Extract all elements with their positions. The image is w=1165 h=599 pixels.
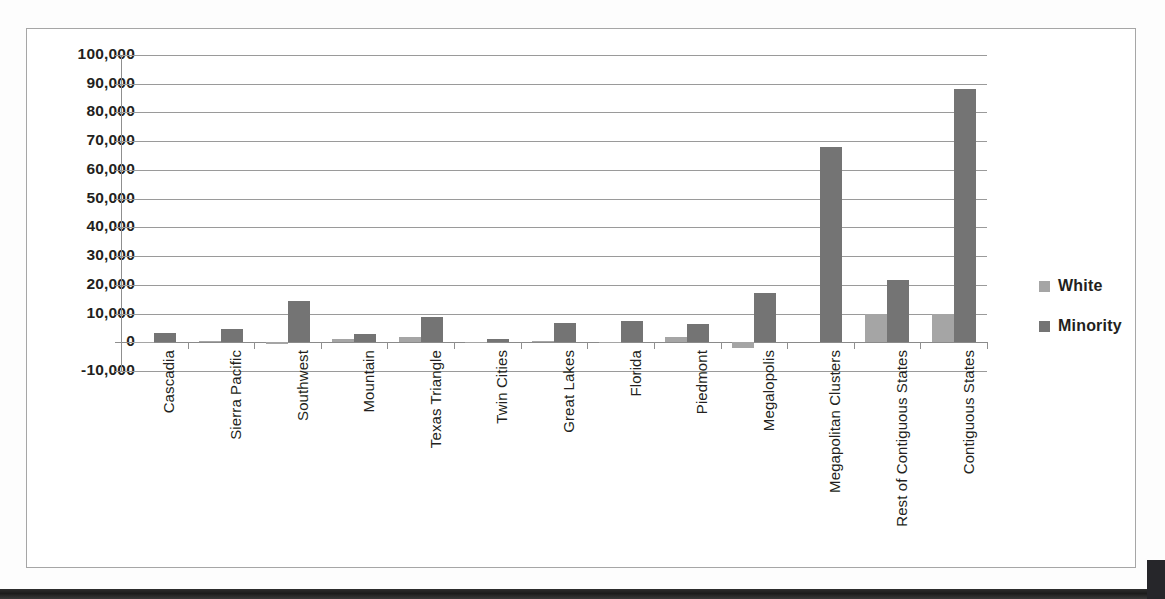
x-axis-tick-label: Megalopolis bbox=[760, 350, 777, 431]
bar-minority bbox=[154, 333, 176, 342]
y-axis-tick-label: 50,000 bbox=[27, 189, 135, 207]
chart-frame: 100,00090,00080,00070,00060,00050,00040,… bbox=[26, 28, 1136, 568]
bar-white bbox=[199, 341, 221, 343]
bar-white bbox=[732, 342, 754, 348]
bar-minority bbox=[754, 293, 776, 342]
y-axis-tick-label: 20,000 bbox=[27, 275, 135, 293]
bar-minority bbox=[221, 329, 243, 343]
x-axis-tick-label: Piedmont bbox=[693, 350, 710, 414]
y-axis-tick-label: -10,000 bbox=[27, 361, 135, 379]
chart-legend: WhiteMinority bbox=[1039, 277, 1122, 357]
legend-swatch-icon bbox=[1039, 281, 1050, 292]
x-axis-tick-label: Florida bbox=[627, 350, 644, 397]
bar-minority bbox=[954, 89, 976, 343]
x-axis-tick-label: Mountain bbox=[360, 350, 377, 413]
x-axis-tick-label: Contiguous States bbox=[960, 350, 977, 474]
x-axis-tick-label: Sierra Pacific bbox=[227, 350, 244, 440]
x-axis-tick-label: Megapolitan Clusters bbox=[826, 350, 843, 493]
bar-white bbox=[865, 314, 887, 342]
x-axis-tick-label: Cascadia bbox=[160, 350, 177, 413]
category-tick-mark bbox=[254, 342, 255, 349]
x-axis-tick-label: Great Lakes bbox=[560, 350, 577, 433]
legend-item: Minority bbox=[1039, 317, 1122, 335]
category-tick-mark bbox=[321, 342, 322, 349]
bar-minority bbox=[421, 317, 443, 342]
x-axis-tick-label: Southwest bbox=[294, 350, 311, 421]
bar-white bbox=[332, 339, 354, 342]
scan-artifact-band bbox=[0, 589, 1165, 599]
bar-minority bbox=[554, 323, 576, 342]
legend-label: Minority bbox=[1058, 317, 1122, 335]
bar-white bbox=[932, 314, 954, 342]
category-tick-mark bbox=[987, 342, 988, 349]
bar-minority bbox=[820, 147, 842, 342]
category-tick-mark bbox=[787, 342, 788, 349]
bar-minority bbox=[288, 301, 310, 342]
y-axis-tick-label: 10,000 bbox=[27, 304, 135, 322]
bar-minority bbox=[487, 339, 509, 342]
y-axis-tick-label: 0 bbox=[27, 332, 135, 350]
bar-minority bbox=[621, 321, 643, 342]
bar-minority bbox=[887, 280, 909, 342]
category-tick-mark bbox=[387, 342, 388, 349]
category-tick-mark bbox=[920, 342, 921, 349]
bar-white bbox=[665, 337, 687, 342]
legend-swatch-icon bbox=[1039, 321, 1050, 332]
category-tick-mark bbox=[721, 342, 722, 349]
bar-white bbox=[399, 337, 421, 342]
category-tick-mark bbox=[521, 342, 522, 349]
x-axis-tick-label: Texas Triangle bbox=[427, 350, 444, 448]
bar-white bbox=[132, 342, 154, 343]
bar-minority bbox=[687, 324, 709, 342]
bar-white bbox=[266, 342, 288, 344]
category-tick-mark bbox=[121, 342, 122, 349]
scan-artifact-corner bbox=[1147, 560, 1165, 599]
y-axis-tick-label: 100,000 bbox=[27, 45, 135, 63]
category-tick-mark bbox=[654, 342, 655, 349]
bar-white bbox=[532, 341, 554, 342]
y-axis-tick-label: 70,000 bbox=[27, 131, 135, 149]
y-axis-tick-label: 90,000 bbox=[27, 74, 135, 92]
bar-white bbox=[599, 342, 621, 343]
y-axis-tick-label: 80,000 bbox=[27, 102, 135, 120]
y-axis-tick-label: 60,000 bbox=[27, 160, 135, 178]
bar-white bbox=[465, 342, 487, 343]
legend-item: White bbox=[1039, 277, 1122, 295]
x-axis-labels: CascadiaSierra PacificSouthwestMountainT… bbox=[121, 350, 987, 540]
scanned-page: 100,00090,00080,00070,00060,00050,00040,… bbox=[0, 0, 1165, 599]
category-tick-mark bbox=[454, 342, 455, 349]
x-axis-tick-label: Rest of Contiguous States bbox=[893, 350, 910, 527]
y-axis-tick-label: 30,000 bbox=[27, 246, 135, 264]
x-axis-tick-label: Twin Cities bbox=[493, 350, 510, 424]
legend-label: White bbox=[1058, 277, 1103, 295]
category-tick-mark bbox=[188, 342, 189, 349]
plot-area bbox=[121, 55, 987, 371]
bar-minority bbox=[354, 334, 376, 343]
category-tick-mark bbox=[854, 342, 855, 349]
category-tick-mark bbox=[587, 342, 588, 349]
y-axis-tick-label: 40,000 bbox=[27, 217, 135, 235]
